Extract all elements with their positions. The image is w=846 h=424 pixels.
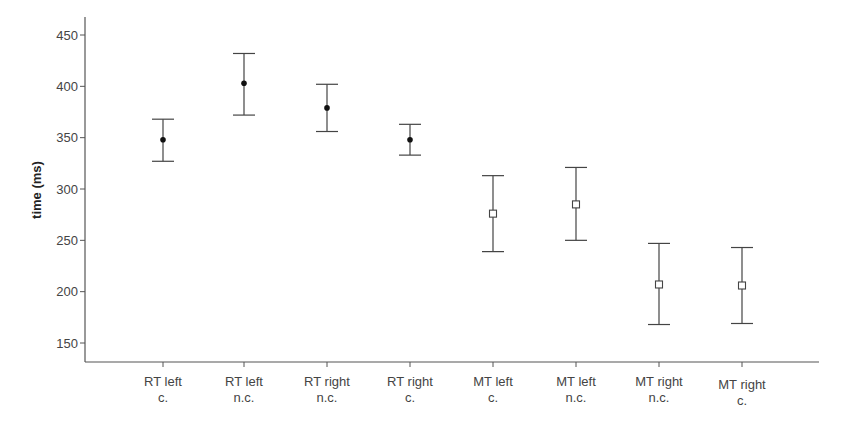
y-axis: 150200250300350400450 (56, 17, 85, 362)
error-bar (648, 243, 670, 324)
x-category-label: MT left (473, 374, 513, 389)
mean-marker (739, 282, 746, 289)
x-category-label: RT left (144, 374, 182, 389)
x-category-label: MT left (556, 374, 596, 389)
mean-marker (241, 80, 247, 86)
error-bar-chart: 150200250300350400450 RT leftc.RT leftn.… (0, 0, 846, 424)
x-category-label: RT left (225, 374, 263, 389)
x-category-sublabel: c. (737, 393, 747, 408)
y-tick-label: 250 (56, 233, 78, 248)
error-bar (399, 124, 421, 155)
y-tick-label: 400 (56, 79, 78, 94)
x-category-sublabel: c. (405, 390, 415, 405)
mean-marker (407, 137, 413, 143)
mean-marker (573, 201, 580, 208)
x-category-label: MT right (718, 377, 766, 392)
x-category-label: RT right (387, 374, 433, 389)
x-category-sublabel: n.c. (317, 390, 338, 405)
plot-area (152, 53, 753, 324)
y-axis-title: time (ms) (29, 161, 44, 219)
error-bar (152, 119, 174, 161)
x-category-sublabel: n.c. (649, 390, 670, 405)
y-tick-label: 150 (56, 336, 78, 351)
error-bar (482, 176, 504, 252)
y-tick-label: 300 (56, 182, 78, 197)
error-bar (565, 167, 587, 240)
error-bar (316, 84, 338, 131)
error-bar (731, 248, 753, 324)
x-category-sublabel: c. (488, 390, 498, 405)
x-axis: RT leftc.RT leftn.c.RT rightn.c.RT right… (85, 362, 819, 408)
mean-marker (656, 281, 663, 288)
y-tick-label: 350 (56, 130, 78, 145)
x-category-sublabel: n.c. (566, 390, 587, 405)
x-category-sublabel: n.c. (234, 390, 255, 405)
mean-marker (490, 210, 497, 217)
x-category-sublabel: c. (158, 390, 168, 405)
x-category-label: MT right (635, 374, 683, 389)
y-tick-label: 200 (56, 284, 78, 299)
y-tick-label: 450 (56, 28, 78, 43)
mean-marker (160, 137, 166, 143)
mean-marker (324, 105, 330, 111)
error-bar (233, 53, 255, 115)
x-category-label: RT right (304, 374, 350, 389)
